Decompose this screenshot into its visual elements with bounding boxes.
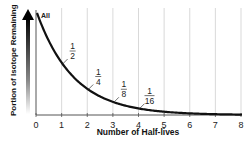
fraction-numerator: 1 — [96, 67, 101, 77]
decay-curve — [37, 13, 242, 115]
fraction-numerator: 1 — [122, 79, 127, 89]
x-tick-label: 2 — [85, 120, 90, 130]
fraction-numerator: 1 — [70, 41, 75, 51]
up-arrow-icon — [22, 9, 34, 114]
x-tick-label: 7 — [213, 120, 218, 130]
x-tick-label: 1 — [59, 120, 64, 130]
half-life-chart: 012345678 All121418116 Portion of Isotop… — [0, 0, 250, 147]
fraction-denominator: 2 — [70, 51, 75, 61]
fraction-denominator: 8 — [122, 89, 127, 99]
x-tick-label: 6 — [187, 120, 192, 130]
x-tick-label: 0 — [33, 120, 38, 130]
fraction-denominator: 4 — [96, 77, 101, 87]
x-axis-label: Number of Half-lives — [97, 127, 180, 137]
fraction-denominator: 16 — [145, 96, 155, 106]
y-axis-label: Portion of Isotope Remaining — [9, 4, 18, 116]
annotation-all: All — [41, 12, 50, 19]
fraction-numerator: 1 — [147, 86, 152, 96]
x-tick-label: 8 — [238, 120, 243, 130]
